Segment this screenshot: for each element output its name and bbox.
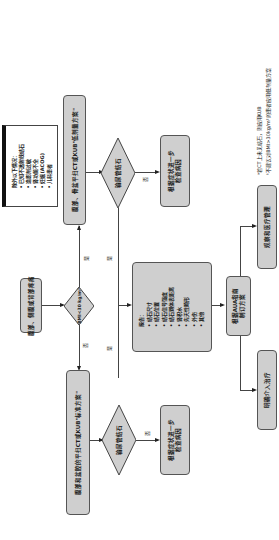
report-item: • 肾积水 [176, 287, 184, 327]
intervention-label: 明确介入治疗 [264, 372, 271, 408]
connector [118, 208, 119, 378]
footnote-a: ᵃ若CT上未见结石，则应用KUB [255, 106, 262, 175]
exclusion-item: • 肾功能不全 [32, 144, 39, 189]
exclusion-list: 除外以下情况： • 已知不透射线结石 • 造影剂过敏 • 肾功能不全 • 妊娠(… [11, 144, 53, 189]
exclusion-box: 除外以下情况： • 已知不透射线结石 • 造影剂过敏 • 肾功能不全 • 妊娠(… [2, 125, 58, 207]
report-box: 报告： • 结石尺寸 • 结石位置 • 结石信号强度 • 结石到体表距离 • 肾… [132, 262, 212, 352]
standard-ct-box: 腹部和盆腔的平扫CT或KUB"标准方案" [66, 370, 90, 515]
stone-decision-top: 输尿管结石 [101, 138, 135, 208]
report-item: • 外伤 [191, 287, 199, 327]
report-item: • 结石位置 [153, 287, 161, 327]
bmi-no-label: 否 [81, 343, 88, 348]
connector [240, 226, 241, 276]
connector [79, 325, 80, 369]
aua-guideline-box: 根据AUA指南 制订方案 [226, 276, 251, 336]
connector [79, 226, 80, 287]
observation-label: 观察和医疗管理 [264, 206, 271, 248]
further-eval-top-label: 根据症状进一步 检查病因 [168, 150, 182, 192]
report-item: • 结石信号强度 [161, 287, 169, 327]
report-item: • 结石尺寸 [146, 287, 154, 327]
start-label: 腹部、侧腹或背部疼痛 [28, 276, 35, 336]
footnote-b: ᵇ不建议对BMI>30kg/m²的患者应用低剂量方案 [264, 68, 271, 175]
intervention-box: 明确介入治疗 [257, 350, 277, 430]
report-list: 报告： • 结石尺寸 • 结石位置 • 结石信号强度 • 结石到体表距离 • 肾… [138, 287, 206, 327]
further-eval-top-box: 根据症状进一步 检查病因 [160, 135, 190, 207]
arrow-up-icon [77, 225, 81, 230]
report-item: • 结石到体表距离 [168, 287, 176, 327]
stone-decision-top-label: 输尿管结石 [115, 158, 122, 188]
connector [240, 336, 241, 390]
bmi-decision-label: BMI<30 kg/m² [76, 288, 83, 324]
report-item: • 其他 [198, 287, 206, 327]
further-eval-bottom-box: 根据症状进一步 检查病因 [160, 405, 190, 475]
stone-top-yes-label: 是 [105, 256, 112, 261]
exclusion-item: • 儿科患者 [46, 144, 53, 189]
stone-top-no-label: 否 [141, 177, 148, 182]
stone-bottom-yes-label: 是 [105, 346, 112, 351]
standard-ct-label: 腹部和盆腔的平扫CT或KUB"标准方案" [75, 390, 82, 494]
bmi-yes-label: 是 [82, 256, 89, 261]
exclusion-item: • 已知不透射线结石 [18, 144, 25, 189]
connector [135, 172, 157, 173]
stone-bottom-no-label: 否 [143, 431, 150, 436]
exclusion-item: • 造影剂过敏 [25, 144, 32, 189]
exclusion-title: 除外以下情况： [11, 144, 18, 189]
bmi-decision: BMI<30 kg/m² [64, 287, 94, 325]
report-title: 报告： [138, 287, 146, 327]
exclusion-item: • 妊娠(ACOG) [39, 144, 46, 189]
start-box: 腹部、侧腹或背部疼痛 [20, 278, 42, 333]
arrow-right-icon [220, 303, 225, 307]
stone-decision-bottom-label: 输尿管结石 [116, 425, 123, 455]
observation-box: 观察和医疗管理 [257, 185, 277, 269]
low-dose-ct-box: 腹部、骨盆平扫CT或KUB"低剂量方案" [63, 95, 86, 225]
low-dose-ct-label: 腹部、骨盆平扫CT或KUB"低剂量方案" [71, 108, 78, 212]
further-eval-bottom-label: 根据症状进一步 检查病因 [168, 419, 182, 461]
report-item: • 先天性畸形 [183, 287, 191, 327]
stone-decision-bottom: 输尿管结石 [102, 405, 136, 475]
aua-guideline-label: 根据AUA指南 制订方案 [232, 288, 246, 325]
